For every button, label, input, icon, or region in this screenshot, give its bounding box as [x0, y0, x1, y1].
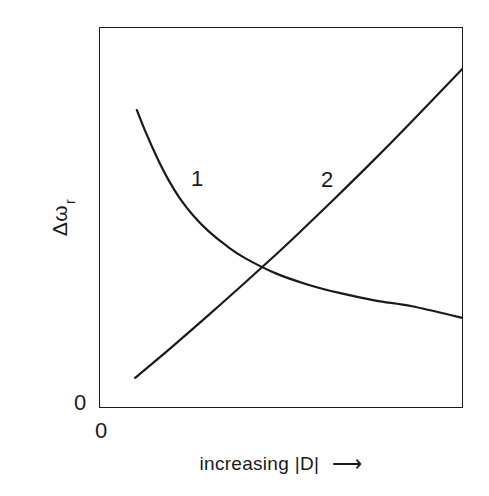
right-arrow-icon: ⟶ [332, 452, 362, 476]
curve-layer [99, 27, 463, 408]
curve-label-1: 1 [191, 168, 203, 190]
y-axis-label: Δωr [48, 158, 75, 278]
x-axis-zero-tick: 0 [95, 420, 107, 442]
x-axis-label: increasing |D|⟶ [99, 451, 463, 475]
figure-canvas: 1 2 Δωr 0 0 increasing |D|⟶ [0, 0, 489, 496]
y-axis-label-subscript: r [62, 199, 78, 204]
curve-1 [137, 110, 463, 318]
x-axis-label-text: increasing |D| [200, 453, 320, 474]
y-axis-label-symbol: Δω [48, 205, 71, 236]
curve-2 [135, 68, 463, 378]
y-axis-zero-tick: 0 [74, 392, 86, 414]
curve-label-2: 2 [321, 169, 333, 191]
